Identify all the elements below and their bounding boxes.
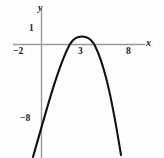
y-tick-label-1: 1 [29,24,34,34]
y-tick-label-minus-8: −8 [20,114,30,124]
parabola-curve [33,37,121,158]
y-axis-label: y [38,3,42,13]
parabola-graph-figure: y x 1 −8 −2 3 8 [0,0,164,158]
x-axis-label: x [146,38,151,48]
x-tick-label-3: 3 [78,47,83,57]
plot-canvas [0,0,164,158]
x-tick-label-8: 8 [126,47,131,57]
x-tick-label-minus-2: −2 [13,47,23,57]
